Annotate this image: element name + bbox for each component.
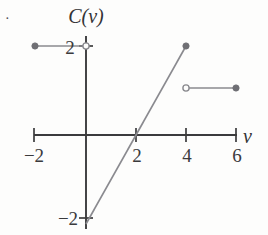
- y-axis-title: C(v): [68, 6, 104, 26]
- endpoint-filled-top: [183, 43, 189, 49]
- y-tick-label--2: −2: [58, 209, 78, 228]
- x-axis-title: v: [243, 126, 252, 146]
- x-tick-label--2: −2: [24, 146, 44, 165]
- curve-branch-2: [86, 43, 189, 224]
- y-tick-label-2: 2: [65, 38, 75, 57]
- x-tick-label-2: 2: [132, 146, 142, 165]
- endpoint-open-origin: [83, 43, 89, 49]
- graph-figure: · C(v) v −2 2 4 6 2 −2: [0, 0, 268, 235]
- endpoint-filled-v6: [233, 85, 239, 91]
- curve-branch-1: [32, 43, 89, 49]
- endpoint-open-v4: [183, 85, 189, 91]
- item-bullet-mark: ·: [5, 12, 10, 26]
- coordinate-plot: [0, 0, 268, 235]
- curve-branch-3: [183, 85, 239, 91]
- endpoint-filled-left: [32, 43, 38, 49]
- x-tick-label-4: 4: [182, 146, 192, 165]
- x-tick-label-6: 6: [232, 146, 242, 165]
- y-axis: [79, 36, 93, 229]
